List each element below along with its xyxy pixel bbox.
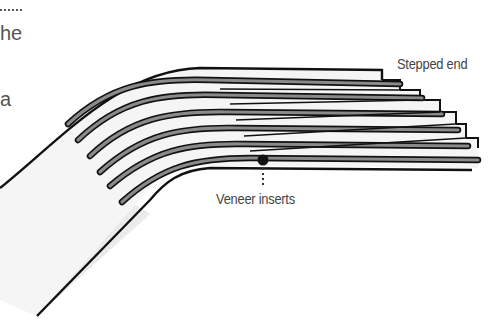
stepped-end-label: Stepped end bbox=[397, 55, 467, 72]
lamination-illustration bbox=[0, 0, 496, 328]
veneer-lamination-diagram: he a bbox=[0, 0, 496, 328]
veneer-inserts-label: Veneer inserts bbox=[216, 190, 295, 207]
veneer-insert-marker bbox=[258, 155, 269, 166]
